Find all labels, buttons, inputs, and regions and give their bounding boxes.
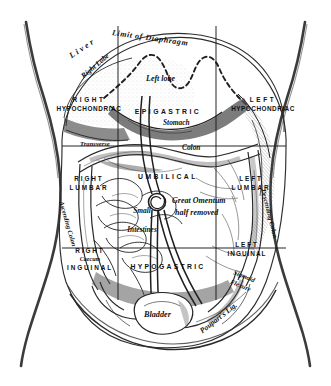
liver (64, 58, 196, 126)
abdomen-engraving (0, 0, 331, 386)
umbilicus (149, 194, 166, 211)
great-omentum (196, 160, 246, 272)
figure-canvas: Limit of Diaphragm Liver Right Lobe Left… (0, 0, 331, 386)
bladder (134, 293, 192, 335)
